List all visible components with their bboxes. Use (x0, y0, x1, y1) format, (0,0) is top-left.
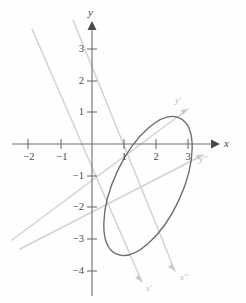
y-tick-label--3: −3 (63, 234, 84, 245)
ellipse-curve (85, 104, 210, 269)
x-prime-axis-label: x′ (146, 284, 152, 293)
coordinate-plot-figure: x y −2 −1 1 2 3 3 2 1 −1 −2 −3 −4 y′ y′′… (0, 0, 246, 303)
x-tick-label-1: 1 (117, 152, 131, 163)
x-tick-label--2: −2 (20, 152, 38, 163)
x-tick-label-3: 3 (181, 152, 195, 163)
y-double-prime-axis-label: y′′ (199, 155, 207, 164)
y-tick-label--4: −4 (63, 266, 84, 277)
y-tick-label--1: −1 (63, 171, 84, 182)
y-axis-label: y (88, 7, 93, 18)
x-tick-label--1: −1 (53, 152, 71, 163)
y-tick-label--2: −2 (63, 202, 84, 213)
x-axis-label: x (224, 138, 229, 149)
x-tick-label-2: 2 (149, 152, 163, 163)
x-double-prime-axis-label: x′′ (180, 273, 188, 282)
y-tick-label-3: 3 (70, 44, 84, 55)
y-tick-label-1: 1 (70, 107, 84, 118)
y-prime-axis-label: y′ (175, 96, 181, 105)
y-tick-label-2: 2 (70, 76, 84, 87)
